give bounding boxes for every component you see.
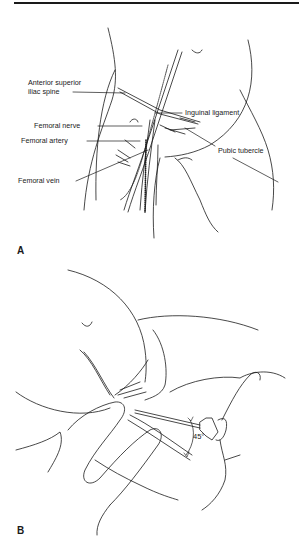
- label-angle-45: 45°: [193, 432, 204, 441]
- label-inguinal-ligament: Inguinal ligament: [185, 109, 239, 117]
- panel-a-letter: A: [17, 245, 24, 256]
- panel-b-drawing: [16, 270, 285, 535]
- label-femoral-nerve: Femoral nerve: [34, 122, 80, 130]
- label-femoral-artery: Femoral artery: [21, 137, 68, 145]
- label-pubic-tubercle: Pubic tubercle: [218, 147, 264, 155]
- label-asis-line1: Anterior superior: [28, 79, 81, 87]
- panel-b-letter: B: [17, 525, 24, 536]
- panel-a-drawing: [84, 28, 274, 238]
- label-asis-line2: iliac spine: [28, 88, 60, 96]
- panel-a-leader-lines: [73, 92, 278, 182]
- label-femoral-vein: Femoral vein: [18, 177, 60, 185]
